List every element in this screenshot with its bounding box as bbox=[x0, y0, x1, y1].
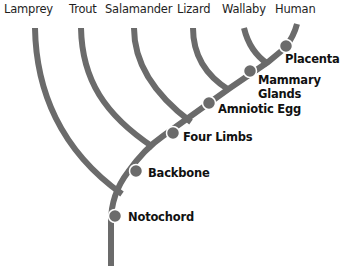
branch-lizard bbox=[193, 28, 229, 90]
node-notochord bbox=[109, 210, 122, 223]
node-amniotic-egg bbox=[203, 97, 216, 110]
taxon-human: Human bbox=[275, 2, 315, 16]
trait-mammary-glands-line1: Mammary bbox=[258, 73, 321, 87]
trait-mammary-glands-line2: Glands bbox=[258, 87, 301, 101]
taxon-salamander: Salamander bbox=[105, 2, 172, 16]
trait-backbone: Backbone bbox=[148, 166, 210, 180]
branch-wallaby bbox=[244, 28, 268, 64]
node-placenta bbox=[280, 40, 293, 53]
cladogram-graphic bbox=[0, 0, 345, 270]
cladogram: Lamprey Trout Salamander Lizard Wallaby … bbox=[0, 0, 345, 270]
node-mammary-glands bbox=[244, 65, 257, 78]
taxon-lizard: Lizard bbox=[177, 2, 210, 16]
branch-trout bbox=[81, 28, 153, 147]
branch-salamander bbox=[134, 28, 191, 122]
taxon-lamprey: Lamprey bbox=[4, 2, 53, 16]
trait-notochord: Notochord bbox=[128, 210, 194, 224]
node-four-limbs bbox=[167, 127, 180, 140]
taxon-wallaby: Wallaby bbox=[222, 2, 266, 16]
trait-placenta: Placenta bbox=[285, 52, 340, 66]
taxon-trout: Trout bbox=[69, 2, 97, 16]
trait-amniotic-egg: Amniotic Egg bbox=[218, 102, 301, 116]
trait-four-limbs: Four Limbs bbox=[183, 130, 252, 144]
node-backbone bbox=[130, 165, 143, 178]
